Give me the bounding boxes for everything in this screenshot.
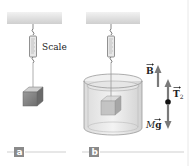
tension-vector-hat-tip (179, 86, 181, 89)
panel-tag-b-label: b (92, 147, 99, 157)
spring-scale-b (108, 36, 115, 57)
block-a (23, 87, 43, 106)
block-b (101, 96, 121, 115)
spring-scale-a (30, 36, 37, 57)
tension-force-label: T2 (173, 89, 184, 100)
weight-force-label: Mg (145, 120, 162, 130)
lower-hook-b (110, 57, 112, 63)
panel-tag-row: a b (7, 147, 184, 157)
ceiling-b (86, 12, 140, 24)
free-body-diagram: B T2 Mg (145, 63, 184, 130)
panel-a: Scale (7, 12, 67, 106)
upper-hook-b (110, 29, 112, 35)
object-point (165, 99, 171, 105)
buoyancy-diagram: Scale (0, 0, 192, 166)
buoyant-force-label: B (146, 66, 154, 76)
panel-tag-a-label: a (17, 147, 23, 157)
scale-label: Scale (42, 42, 67, 52)
upper-hook-a (32, 29, 34, 35)
tension-force-arrow (165, 79, 172, 101)
buoyant-force-arrow (155, 65, 162, 87)
water-surface (87, 81, 139, 91)
lower-hook-a (32, 57, 34, 63)
weight-force-arrow (165, 104, 172, 129)
ceiling-a (7, 12, 62, 24)
panel-b: B T2 Mg (84, 12, 184, 135)
